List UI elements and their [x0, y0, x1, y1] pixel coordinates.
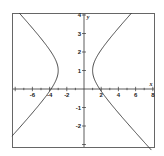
y-axis-label: y — [86, 14, 90, 20]
hyperbola-chart: -6-4-22468-2-11234xy — [0, 0, 164, 156]
x-axis-label: x — [149, 81, 153, 87]
x-tick-label: -2 — [64, 92, 70, 98]
x-tick-label: -4 — [47, 92, 53, 98]
y-tick-label: -2 — [76, 123, 82, 129]
x-tick-label: -6 — [30, 92, 36, 98]
y-tick-label: -1 — [76, 105, 82, 111]
